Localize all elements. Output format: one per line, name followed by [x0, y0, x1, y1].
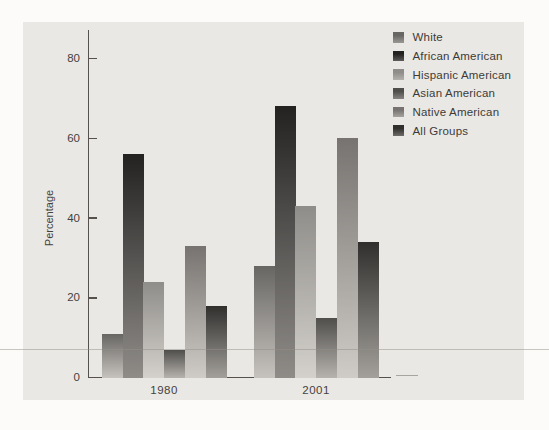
legend-swatch-asian-american — [393, 88, 404, 99]
scan-artifact-line — [0, 349, 549, 350]
y-tick-20 — [89, 297, 97, 299]
bar-african-american-1980 — [123, 154, 144, 377]
bar-all-groups-2001 — [358, 242, 379, 378]
bar-asian-american-1980 — [164, 350, 185, 378]
legend-item-african-american: African American — [393, 51, 511, 62]
legend-item-white: White — [393, 32, 511, 43]
legend-swatch-native-american — [393, 107, 404, 118]
legend-label-white: White — [413, 31, 443, 43]
y-tick-40 — [89, 217, 97, 219]
y-tick-label-20: 20 — [48, 292, 80, 303]
bar-white-2001 — [254, 266, 275, 378]
x-category-label-1980: 1980 — [129, 384, 199, 396]
y-tick-label-80: 80 — [48, 53, 80, 64]
legend-label-african-american: African American — [413, 50, 503, 62]
bar-african-american-2001 — [275, 106, 296, 377]
legend: WhiteAfrican AmericanHispanic AmericanAs… — [393, 32, 511, 144]
legend-label-native-american: Native American — [413, 106, 500, 118]
bar-hispanic-american-1980 — [143, 282, 164, 378]
y-tick-label-40: 40 — [48, 213, 80, 224]
x-category-label-2001: 2001 — [281, 384, 351, 396]
legend-item-all-groups: All Groups — [393, 125, 511, 136]
bar-white-1980 — [102, 334, 123, 378]
bar-asian-american-2001 — [316, 318, 337, 378]
y-axis-line — [88, 30, 90, 378]
legend-label-asian-american: Asian American — [413, 87, 496, 99]
y-tick-label-60: 60 — [48, 133, 80, 144]
legend-swatch-all-groups — [393, 125, 404, 136]
legend-swatch-african-american — [393, 51, 404, 62]
figure: Percentage 02040608019802001 WhiteAfrica… — [0, 0, 549, 430]
legend-swatch-white — [393, 32, 404, 43]
legend-item-native-american: Native American — [393, 107, 511, 118]
bar-all-groups-1980 — [206, 306, 227, 378]
y-tick-60 — [89, 138, 97, 140]
legend-item-hispanic-american: Hispanic American — [393, 69, 511, 80]
bar-native-american-2001 — [337, 138, 358, 377]
legend-label-all-groups: All Groups — [413, 125, 469, 137]
legend-label-hispanic-american: Hispanic American — [413, 69, 512, 81]
bar-hispanic-american-2001 — [295, 206, 316, 377]
bar-native-american-1980 — [185, 246, 206, 378]
scan-artifact-dash — [396, 375, 418, 376]
legend-item-asian-american: Asian American — [393, 88, 511, 99]
legend-swatch-hispanic-american — [393, 69, 404, 80]
y-tick-80 — [89, 58, 97, 60]
y-tick-label-0: 0 — [48, 372, 80, 383]
